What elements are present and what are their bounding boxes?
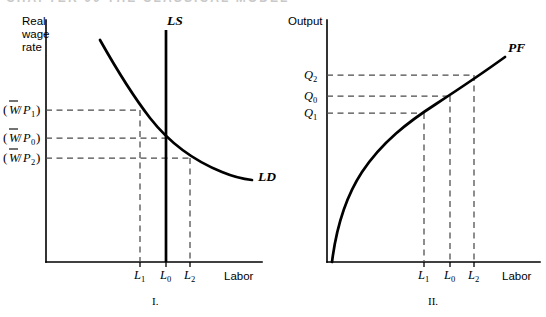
labor-demand-label: LD: [257, 169, 276, 184]
svg-text:L: L: [159, 268, 167, 282]
svg-text:1: 1: [141, 274, 145, 284]
panel-one-x-tick-l2: L 2: [183, 268, 195, 284]
svg-text:2: 2: [191, 274, 195, 284]
panel-two-x-axis-label: Labor: [502, 270, 532, 282]
panel-one-y-axis-label-line3: rate: [22, 41, 42, 53]
svg-text:0: 0: [313, 95, 317, 105]
panel-two-x-tick-l1: L 1: [417, 268, 429, 284]
slash-1: /: [18, 102, 22, 117]
labor-supply-label: LS: [166, 13, 183, 28]
panel-one-y-tick-w-p0: ( W / P 0 ): [3, 129, 40, 147]
svg-text:Q: Q: [304, 68, 313, 82]
svg-text:Q: Q: [304, 106, 313, 120]
panel-one-id: I.: [152, 295, 159, 307]
svg-text:(: (: [3, 150, 7, 165]
panel-one-x-tick-l0: L 0: [159, 268, 171, 284]
svg-text:2: 2: [313, 74, 317, 84]
svg-text:L: L: [443, 268, 451, 282]
svg-text:0: 0: [451, 274, 455, 284]
panel-two-y-tick-q0: Q 0: [304, 89, 317, 105]
economics-figure: CHAPTER 00 THE CLASSICAL MODEL: [0, 0, 546, 317]
panel-two-x-tick-l0: L 0: [443, 268, 455, 284]
panel-one-y-axis-label-line1: Real: [22, 15, 46, 27]
svg-text:L: L: [183, 268, 191, 282]
panel-two-y-tick-q1: Q 1: [304, 106, 317, 122]
production-function-label: PF: [508, 40, 525, 55]
panel-one-y-tick-w-p2: ( W / P 2 ): [3, 149, 40, 167]
p-glyph-0: P: [22, 131, 31, 145]
panel-one-y-tick-w-p1: ( W / P 1 ): [3, 101, 40, 119]
production-function-curve: [332, 57, 505, 262]
panel-one-y-axis-label-line2: wage: [21, 28, 50, 40]
panel-two-x-tick-l2: L 2: [467, 268, 479, 284]
figure-canvas: Real wage rate LS LD ( W / P 1 ) ( W / P…: [0, 0, 546, 317]
panel-two-y-axis-label: Output: [288, 15, 323, 27]
svg-text:1: 1: [425, 274, 429, 284]
svg-text:L: L: [467, 268, 475, 282]
svg-text:1: 1: [313, 112, 317, 122]
slash-0: /: [18, 130, 22, 145]
panel-two-y-tick-q2: Q 2: [304, 68, 317, 84]
panel-two-id: II.: [428, 295, 438, 307]
svg-text:0: 0: [167, 274, 171, 284]
p-sub-2: 2: [31, 157, 35, 167]
p-sub-1: 1: [31, 109, 35, 119]
svg-text:2: 2: [475, 274, 479, 284]
svg-text:): ): [36, 130, 40, 145]
panel-two: [327, 20, 540, 267]
svg-text:): ): [36, 102, 40, 117]
svg-text:L: L: [133, 268, 141, 282]
panel-one-x-axis-label: Labor: [224, 270, 254, 282]
slash-2: /: [18, 150, 22, 165]
p-sub-0: 0: [31, 137, 35, 147]
p-glyph-1: P: [22, 103, 31, 117]
svg-text:Q: Q: [304, 89, 313, 103]
panel-one: [46, 20, 262, 267]
p-glyph-2: P: [22, 151, 31, 165]
svg-text:L: L: [417, 268, 425, 282]
svg-text:(: (: [3, 130, 7, 145]
svg-text:(: (: [3, 102, 7, 117]
svg-text:): ): [36, 150, 40, 165]
panel-one-x-tick-l1: L 1: [133, 268, 145, 284]
